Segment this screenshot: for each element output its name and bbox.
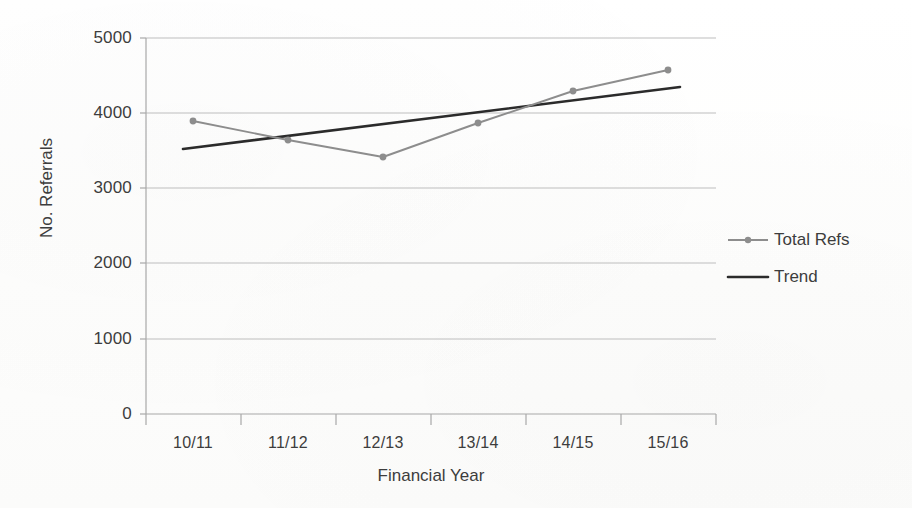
ytick-label-3000: 3000: [44, 178, 132, 198]
chart-canvas: [0, 0, 912, 508]
xtick-label-10-11: 10/11: [148, 434, 238, 452]
xtick-label-12-13: 12/13: [338, 434, 428, 452]
data-point: [190, 118, 197, 125]
xtick-label-14-15: 14/15: [528, 434, 618, 452]
x-axis-title: Financial Year: [146, 466, 716, 486]
ytick-label-2000: 2000: [44, 253, 132, 273]
data-point: [380, 154, 387, 161]
data-point: [570, 88, 577, 95]
data-point: [665, 67, 672, 74]
data-point: [475, 120, 482, 127]
ytick-label-5000: 5000: [44, 28, 132, 48]
y-axis-title: No. Referrals: [37, 108, 57, 268]
data-point: [285, 137, 292, 144]
chart-page: 5000 4000 3000 2000 1000 0 10/11 11/12 1…: [0, 0, 912, 508]
xtick-label-11-12: 11/12: [243, 434, 333, 452]
legend-swatch-total-refs: [728, 237, 768, 243]
line-chart: 5000 4000 3000 2000 1000 0 10/11 11/12 1…: [0, 0, 912, 508]
ytick-label-0: 0: [44, 404, 132, 424]
ytick-label-1000: 1000: [44, 329, 132, 349]
xtick-label-13-14: 13/14: [433, 434, 523, 452]
x-axis: [146, 414, 716, 425]
xtick-label-15-16: 15/16: [623, 434, 713, 452]
ytick-label-4000: 4000: [44, 103, 132, 123]
legend-label-trend: Trend: [774, 267, 818, 287]
y-axis: [140, 38, 146, 414]
legend-label-total-refs: Total Refs: [774, 230, 850, 250]
gridlines: [146, 38, 716, 339]
